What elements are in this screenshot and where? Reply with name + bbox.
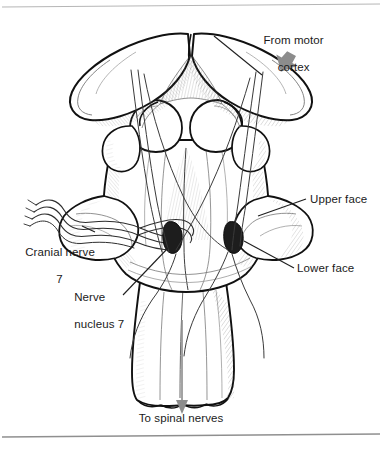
label-from-motor-cortex: From motor cortex: [244, 20, 330, 88]
label-from-motor-cortex-line2: cortex: [278, 61, 310, 73]
label-cranial-nerve-7-line1: Cranial nerve: [25, 246, 95, 258]
label-nerve-nucleus-7-line1: Nerve: [74, 291, 105, 303]
facial-nerve-nucleus-left: [163, 222, 182, 254]
label-to-spinal-nerves: To spinal nerves: [110, 412, 252, 426]
label-upper-face: Upper face: [310, 193, 367, 207]
label-nerve-nucleus-7-line2: nucleus 7: [74, 318, 124, 330]
label-nerve-nucleus-7: Nerve nucleus 7: [61, 277, 124, 345]
label-lower-face: Lower face: [297, 262, 354, 276]
anatomy-figure: From motor cortex Upper face Lower face …: [0, 0, 382, 452]
medulla-oblongata: [132, 282, 234, 408]
label-from-motor-cortex-line1: From motor: [263, 34, 323, 46]
